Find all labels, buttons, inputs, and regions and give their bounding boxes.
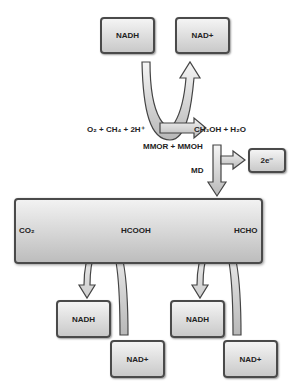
md-branch-arrow [221,151,245,169]
bottom-left-nad-plus-label: NAD+ [126,355,148,364]
bottom-left-nadh-box: NADH [56,300,111,338]
bottom-right-nad-plus-label: NAD+ [239,355,261,364]
electrons-box: 2e⁻ [248,148,286,173]
top-nad-plus-box: NAD+ [175,17,230,54]
arrows-layer [0,0,297,391]
hcooh-label: HCOOH [121,226,151,235]
top-nadh-label: NADH [116,31,139,40]
top-nad-plus-label: NAD+ [191,31,213,40]
bottom-left-nad-plus-box: NAD+ [110,340,165,378]
enzyme-label: MMOR + MMOH [143,142,203,151]
bottom-right-nadh-label: NADH [186,315,209,324]
co2-label: CO₂ [19,226,35,235]
md-down-arrow [208,145,226,196]
bottom-right-nadh-box: NADH [170,300,225,338]
bottom-left-nadh-label: NADH [72,315,95,324]
reactants-label: O₂ + CH₄ + 2H⁺ [87,125,145,134]
electrons-label: 2e⁻ [261,156,274,165]
products-label: CH₃OH + H₂O [194,125,246,134]
md-label: MD [191,166,203,175]
hcho-label: HCHO [234,226,258,235]
top-nadh-box: NADH [100,17,155,54]
bottom-right-nad-plus-box: NAD+ [223,340,278,378]
